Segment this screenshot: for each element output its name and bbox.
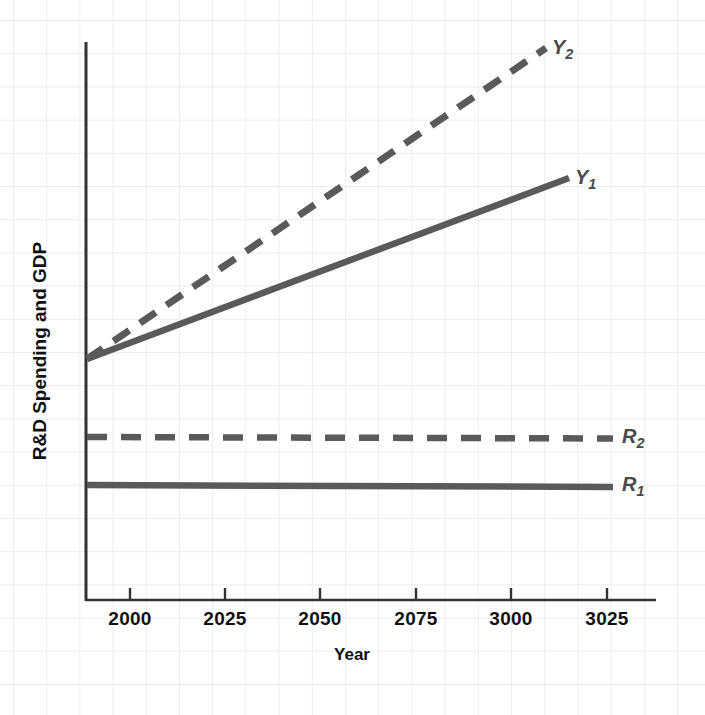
series-label-r2: R2 xyxy=(622,425,644,451)
y-axis-title: R&D Spending and GDP xyxy=(29,201,51,501)
series-line-r2 xyxy=(87,437,613,439)
x-tick-label-3025: 3025 xyxy=(585,608,628,630)
x-tick-label-2050: 2050 xyxy=(298,608,341,630)
x-tick-label-3000: 3000 xyxy=(489,608,532,630)
x-tick-label-2075: 2075 xyxy=(394,608,437,630)
series-label-y1: Y1 xyxy=(575,166,596,192)
series-line-r1 xyxy=(87,485,613,487)
chart-figure: Y2 Y1 R2 R1 2000 2025 2050 2075 3000 302… xyxy=(0,0,705,715)
x-tick-label-2025: 2025 xyxy=(203,608,246,630)
x-axis-ticks xyxy=(130,588,607,600)
x-axis-title: Year xyxy=(334,645,370,665)
series-label-y2: Y2 xyxy=(552,36,573,62)
series-line-y2 xyxy=(87,48,546,359)
series-label-r1: R1 xyxy=(622,473,644,499)
series-line-y1 xyxy=(87,178,569,359)
x-tick-label-2000: 2000 xyxy=(108,608,151,630)
